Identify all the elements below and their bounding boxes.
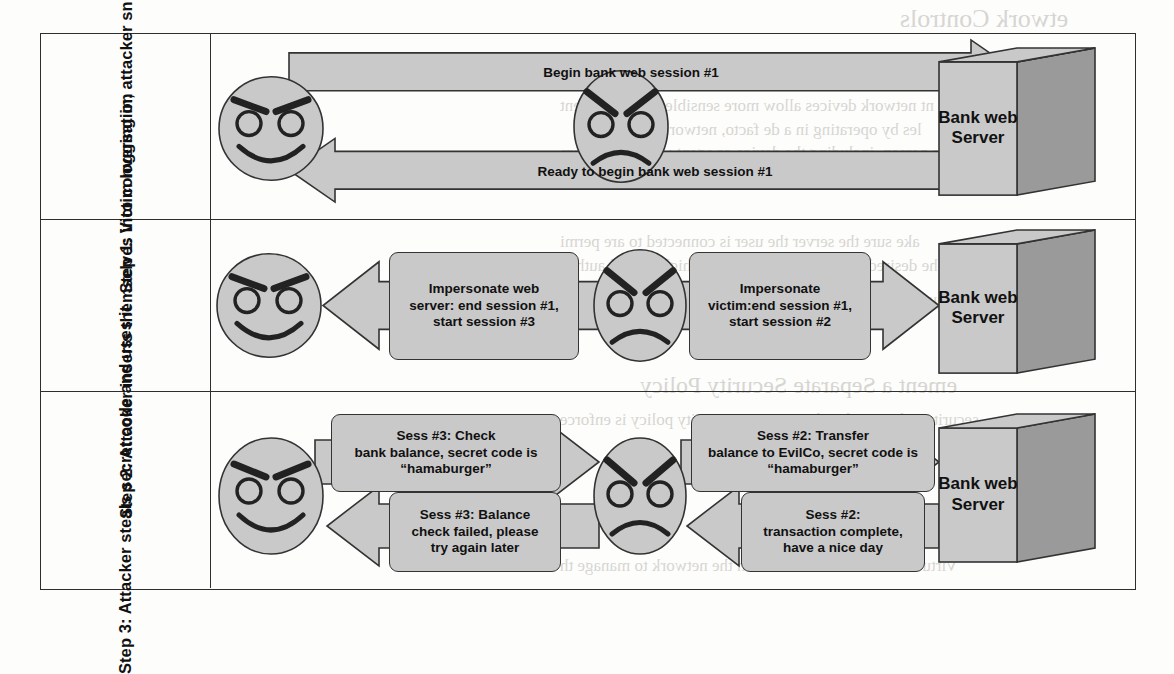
step-2-message-1: Impersonate web server: end session #1, … — [389, 252, 579, 360]
svg-text:Bank web: Bank web — [938, 474, 1017, 493]
svg-text:Server: Server — [952, 128, 1005, 147]
victim-happy-face — [219, 77, 323, 180]
step-3-label: Step 3: Attacker steals secret code and … — [116, 306, 136, 674]
bank-web-server-3: Bank web Server — [938, 414, 1095, 562]
step-3-message-2: Sess #3: Balance check failed, please tr… — [389, 492, 561, 572]
step-1-message-2: Ready to begin bank web session #1 — [335, 152, 975, 190]
victim-happy-face — [219, 438, 323, 554]
step-3-message-1: Sess #3: Check bank balance, secret code… — [331, 414, 561, 492]
step-3-label-cell: Step 3: Attacker steals secret code and … — [41, 392, 211, 588]
step-3-stage: Bank web Server Sess #3: Check bank bala… — [211, 392, 1135, 588]
bank-web-server-2: Bank web Server — [938, 230, 1095, 373]
step-3-row: Step 3: Attacker steals secret code and … — [41, 392, 1135, 588]
attacker-angry-face — [594, 438, 686, 554]
step-3-message-4: Sess #2: transaction complete, have a ni… — [741, 492, 925, 572]
svg-text:Server: Server — [952, 495, 1005, 514]
showthrough-line-0: etwork Controls — [900, 4, 1068, 34]
svg-text:Bank web: Bank web — [938, 288, 1017, 307]
step-1-stage: Bank web Server Begin bank web session #… — [211, 34, 1135, 219]
victim-happy-face — [217, 254, 321, 357]
attacker-angry-face — [594, 250, 686, 361]
diagram-frame: Step 1: Victim logging in, attacker snif… — [40, 33, 1136, 590]
step-2-message-2: Impersonate victim:end session #1, start… — [689, 252, 871, 360]
svg-text:Bank web: Bank web — [938, 108, 1017, 127]
step-3-message-3: Sess #2: Transfer balance to EvilCo, sec… — [691, 414, 935, 492]
step-2-graphics: Bank web Server — [211, 220, 1135, 391]
step-1-message-1: Begin bank web session #1 — [291, 53, 971, 91]
step-2-row: Step 2: Attacker inserts themselves into… — [41, 220, 1135, 392]
step-2-stage: Bank web Server Impersonate web server: … — [211, 220, 1135, 391]
step-1-row: Step 1: Victim logging in, attacker snif… — [41, 34, 1135, 220]
svg-text:Server: Server — [952, 308, 1005, 327]
